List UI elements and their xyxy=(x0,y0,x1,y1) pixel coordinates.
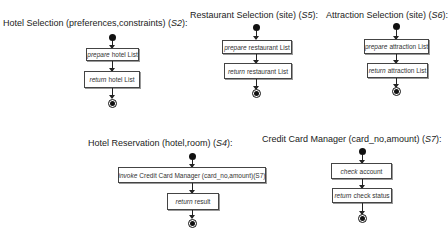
flow-arrow xyxy=(396,54,397,63)
flow-arrow xyxy=(256,79,257,89)
title-text: Restaurant Selection (site) ( xyxy=(190,10,302,20)
title-suffix: ): xyxy=(443,10,448,20)
action-prepare-attraction-list: prepareattraction List xyxy=(364,39,429,54)
flow-arrow xyxy=(192,210,193,218)
flow-arrow xyxy=(396,78,397,87)
action-prepare-hotel-list: preparehotel List xyxy=(86,48,139,61)
action-verb: return xyxy=(334,192,351,199)
action-verb: return xyxy=(176,198,193,205)
action-object: restaurant List xyxy=(247,68,288,75)
action-verb: invoke xyxy=(119,172,138,179)
action-verb: prepare xyxy=(87,51,109,58)
flow-arrow xyxy=(192,160,193,167)
flow-arrow xyxy=(362,203,363,214)
title-text: Credit Card Manager (card_no,amount) ( xyxy=(262,134,425,144)
action-verb: return xyxy=(228,68,245,75)
initial-node xyxy=(109,34,116,41)
action-return-hotel-list: returnhotel List xyxy=(84,71,140,88)
title-suffix: ): xyxy=(436,134,442,144)
title-code: S4 xyxy=(216,138,227,148)
final-node xyxy=(108,99,117,108)
action-object: account xyxy=(360,168,383,175)
title-text: Hotel Reservation (hotel,room) ( xyxy=(88,138,216,148)
action-return-check-status: returncheck status xyxy=(332,188,392,203)
action-object: check status xyxy=(353,192,389,199)
action-object: restaurant List xyxy=(249,44,290,51)
action-object: attraction List xyxy=(388,67,427,74)
action-verb: prepare xyxy=(365,43,387,50)
diagram-title-hotel-selection: Hotel Selection (preferences,constraints… xyxy=(3,18,188,28)
title-code: S6 xyxy=(432,10,443,20)
action-invoke-credit-card-manager: invokeCredit Card Manager (card_no,amoun… xyxy=(118,167,266,183)
flow-arrow xyxy=(362,155,363,163)
initial-node xyxy=(393,23,400,30)
title-suffix: ): xyxy=(182,18,188,28)
title-text: Hotel Selection (preferences,constraints… xyxy=(3,18,171,28)
diagram-title-hotel-reservation: Hotel Reservation (hotel,room) (S4): xyxy=(88,138,233,148)
action-verb: prepare xyxy=(224,44,246,51)
final-node xyxy=(358,214,367,223)
action-check-account: checkaccount xyxy=(331,163,392,179)
action-return-restaurant-list: returnrestaurant List xyxy=(224,63,292,79)
title-code: S5 xyxy=(302,10,313,20)
flow-arrow xyxy=(362,179,363,188)
title-code: S2 xyxy=(171,18,182,28)
action-object: attraction List xyxy=(389,43,428,50)
flow-arrow xyxy=(192,183,193,193)
action-verb: check xyxy=(341,168,358,175)
flow-arrow xyxy=(112,61,113,71)
action-object: hotel List xyxy=(112,51,138,58)
flow-arrow xyxy=(112,88,113,98)
action-return-result: returnresult xyxy=(167,193,219,210)
initial-node xyxy=(253,24,260,31)
final-node xyxy=(188,219,197,228)
action-object: hotel List xyxy=(108,76,134,83)
title-text: Attraction Selection (site) ( xyxy=(326,10,432,20)
final-node xyxy=(252,89,261,98)
diagram-title-credit-card-manager: Credit Card Manager (card_no,amount) (S7… xyxy=(262,134,442,144)
initial-node xyxy=(189,153,196,160)
flow-arrow xyxy=(112,41,113,48)
title-suffix: ): xyxy=(313,10,319,20)
action-prepare-restaurant-list: preparerestaurant List xyxy=(222,40,292,54)
action-return-attraction-list: returnattraction List xyxy=(367,63,428,78)
action-object: result xyxy=(195,198,211,205)
title-suffix: ): xyxy=(227,138,233,148)
flow-arrow xyxy=(256,31,257,39)
initial-node xyxy=(359,148,366,155)
action-object: Credit Card Manager (card_no,amount)(S7) xyxy=(139,172,265,179)
title-code: S7 xyxy=(425,134,436,144)
flow-arrow xyxy=(256,54,257,63)
diagram-title-attraction-selection: Attraction Selection (site) (S6): xyxy=(326,10,448,20)
action-verb: return xyxy=(369,67,386,74)
flow-arrow xyxy=(396,30,397,39)
final-node xyxy=(392,87,401,96)
action-verb: return xyxy=(89,76,106,83)
diagram-title-restaurant-selection: Restaurant Selection (site) (S5): xyxy=(190,10,318,20)
